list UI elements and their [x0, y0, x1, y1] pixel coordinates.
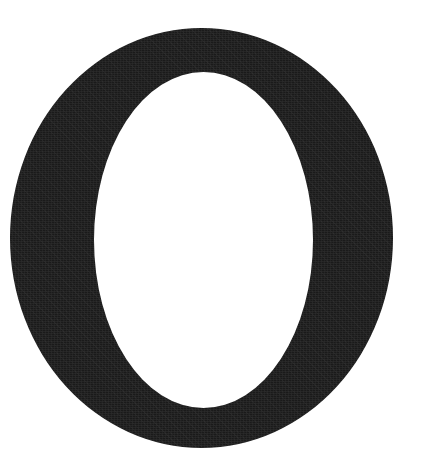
glyph-canvas: Capital letter O	[0, 0, 422, 466]
letter-o-glyph	[0, 0, 422, 466]
